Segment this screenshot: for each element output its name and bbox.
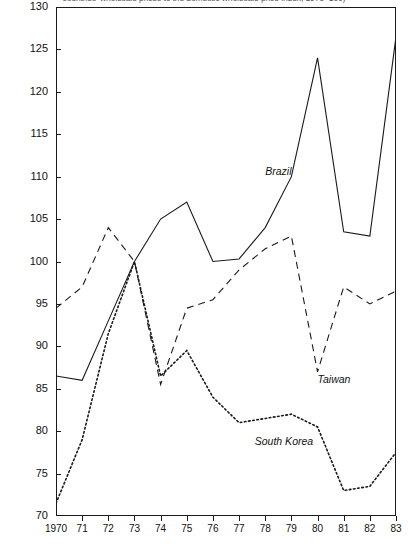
x-axis-tick-mark <box>265 516 266 521</box>
x-axis-tick-mark <box>213 516 214 521</box>
x-axis-tick-mark <box>318 516 319 521</box>
x-axis-tick-label: 1970 <box>45 523 67 534</box>
x-axis-tick-label: 78 <box>260 523 271 534</box>
x-axis-tick-mark <box>396 516 397 521</box>
y-axis-tick-label: 90 <box>14 340 48 351</box>
x-axis-tick-mark <box>291 516 292 521</box>
x-axis-tick-label: 73 <box>129 523 140 534</box>
y-axis-tick-label: 100 <box>14 256 48 267</box>
x-axis-tick-mark <box>344 516 345 521</box>
y-axis-tick-mark <box>56 262 61 263</box>
y-axis-tick-label: 125 <box>14 43 48 54</box>
series-label-taiwan: Taiwan <box>318 374 351 385</box>
y-axis-tick-mark <box>56 134 61 135</box>
y-axis-tick-mark <box>56 346 61 347</box>
y-axis-tick-mark <box>56 49 61 50</box>
x-axis-tick-mark <box>134 516 135 521</box>
y-axis-tick-label: 110 <box>14 171 48 182</box>
x-axis-tick-mark <box>370 516 371 521</box>
x-axis-tick-label: 71 <box>77 523 88 534</box>
y-axis-tick-label: 130 <box>14 1 48 12</box>
series-label-brazil: Brazil <box>265 166 291 177</box>
chart-title: countries' wholesale prices to the domes… <box>0 0 408 3</box>
x-axis-tick-label: 80 <box>312 523 323 534</box>
x-axis-tick-label: 81 <box>338 523 349 534</box>
plot-area <box>56 7 396 516</box>
y-axis-tick-label: 80 <box>14 425 48 436</box>
x-axis-tick-label: 74 <box>155 523 166 534</box>
series-label-south-korea: South Korea <box>255 436 313 447</box>
y-axis-tick-mark <box>56 177 61 178</box>
series-line-taiwan <box>56 228 396 385</box>
x-axis-tick-label: 79 <box>286 523 297 534</box>
x-axis-tick-mark <box>187 516 188 521</box>
y-axis-tick-mark <box>56 474 61 475</box>
y-axis-tick-mark <box>56 389 61 390</box>
x-axis-tick-label: 83 <box>390 523 401 534</box>
x-axis-tick-label: 77 <box>234 523 245 534</box>
y-axis-tick-label: 70 <box>14 510 48 521</box>
series-canvas <box>56 7 396 516</box>
series-line-brazil <box>56 37 396 381</box>
x-axis-tick-label: 82 <box>364 523 375 534</box>
y-axis-tick-label: 95 <box>14 298 48 309</box>
y-axis-tick-mark <box>56 304 61 305</box>
y-axis-tick-mark <box>56 431 61 432</box>
x-axis-tick-mark <box>82 516 83 521</box>
x-axis-tick-mark <box>161 516 162 521</box>
y-axis-tick-label: 75 <box>14 468 48 479</box>
y-axis-tick-label: 85 <box>14 383 48 394</box>
x-axis-tick-mark <box>239 516 240 521</box>
x-axis-tick-mark <box>108 516 109 521</box>
x-axis-tick-label: 75 <box>181 523 192 534</box>
y-axis-tick-label: 105 <box>14 213 48 224</box>
y-axis-tick-mark <box>56 219 61 220</box>
y-axis-tick-label: 115 <box>14 128 48 139</box>
y-axis-tick-mark <box>56 92 61 93</box>
y-axis-tick-label: 120 <box>14 86 48 97</box>
x-axis-tick-label: 72 <box>103 523 114 534</box>
x-axis-tick-label: 76 <box>207 523 218 534</box>
